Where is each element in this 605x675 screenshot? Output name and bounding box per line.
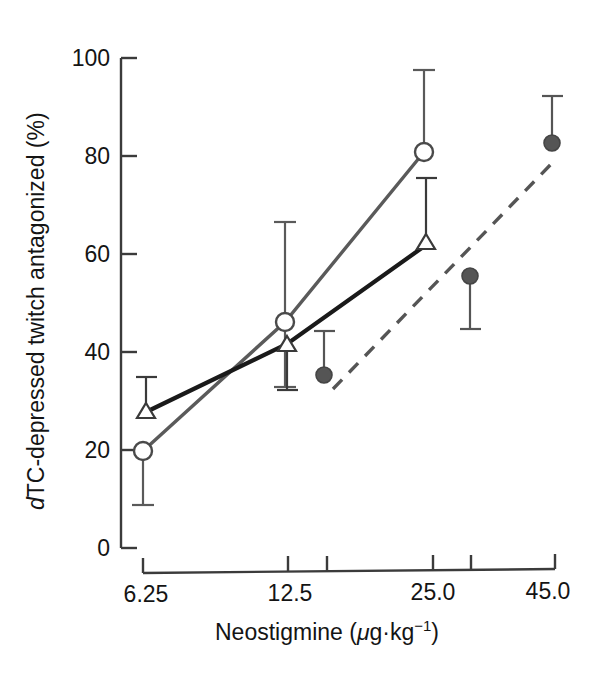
x-axis-spine	[143, 569, 555, 573]
filled-circle-marker-1	[316, 367, 332, 383]
y-tick-label-20: 20	[84, 437, 110, 463]
x-axis-title-close: )	[431, 619, 439, 645]
x-axis-title: Neostigmine (μg·kg−1)	[215, 617, 439, 645]
open-circle-marker-1	[134, 442, 152, 460]
open-circle-errorbar-3	[413, 70, 435, 152]
series-open-triangle	[136, 178, 437, 418]
filled-circle-connecting-line	[333, 158, 557, 389]
x-tick-label-12-5: 12.5	[268, 580, 313, 606]
y-axis-title-text: TC-depressed twitch antagonized (%)	[23, 112, 49, 497]
y-tick-label-80: 80	[84, 143, 110, 169]
x-axis-title-mu: μ	[356, 619, 370, 645]
x-axis-title-exponent: −1	[414, 617, 431, 634]
x-axis-title-main: Neostigmine (	[215, 619, 357, 645]
open-triangle-marker-3	[417, 234, 435, 249]
x-tick-label-6-25: 6.25	[124, 581, 169, 607]
open-triangle-errorbar-3	[416, 178, 437, 240]
y-axis	[121, 58, 137, 548]
x-axis	[143, 554, 555, 573]
x-tick-label-45-0: 45.0	[526, 578, 571, 604]
filled-circle-errorbar-2	[460, 277, 481, 329]
filled-circle-marker-3	[544, 135, 560, 151]
chart-plot: 100 80 60 40 20 0 dTC-depressed twitch a…	[0, 0, 605, 675]
open-circle-marker-3	[415, 143, 433, 161]
open-triangle-errorbar-2	[277, 349, 298, 390]
open-circle-marker-2	[276, 313, 294, 331]
series-open-circle	[132, 70, 435, 505]
x-tick-label-25-0: 25.0	[411, 579, 456, 605]
svg-text:dTC-depressed twitch antagoniz: dTC-depressed twitch antagonized (%)	[23, 112, 49, 510]
y-tick-label-0: 0	[97, 535, 110, 561]
y-axis-title: dTC-depressed twitch antagonized (%)	[23, 112, 49, 510]
y-tick-label-60: 60	[84, 241, 110, 267]
y-tick-label-40: 40	[84, 339, 110, 365]
open-circle-connecting-line	[143, 152, 424, 451]
x-axis-title-unit: g·kg	[369, 619, 414, 645]
figure-container: 100 80 60 40 20 0 dTC-depressed twitch a…	[0, 0, 605, 675]
open-circle-errorbar-2	[274, 222, 296, 387]
y-tick-label-100: 100	[72, 45, 110, 71]
filled-circle-marker-2	[462, 268, 478, 284]
